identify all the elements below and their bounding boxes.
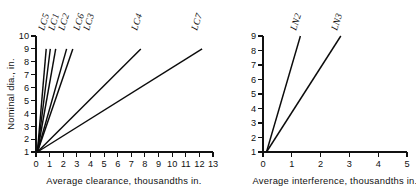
series-label-lc4: LC4	[128, 12, 144, 33]
left-x-ticklabel: 5	[102, 159, 107, 169]
left-x-ticklabel: 9	[156, 159, 161, 169]
right-y-ticklabel: 8	[251, 46, 256, 56]
left-chart-y-ticklabels: 10 9 8 7 6 5 4 3 2 1	[19, 31, 29, 157]
left-x-ticklabel: 2	[61, 159, 66, 169]
left-x-ticklabel: 4	[88, 159, 93, 169]
right-chart-x-ticks	[263, 152, 407, 157]
series-line-ln2	[267, 36, 301, 152]
left-y-ticklabel: 9	[24, 44, 29, 54]
left-chart-x-ticklabels: 0 1 2 3 4 5 6 7 8 9 10 11 12 13	[33, 159, 218, 169]
series-line-ln3	[267, 36, 341, 152]
right-y-ticklabel: 6	[251, 75, 256, 85]
right-y-ticklabel: 4	[251, 104, 256, 114]
engineering-fit-chart-figure: 10 9 8 7 6 5 4 3 2 1	[0, 0, 416, 192]
figure-canvas: 10 9 8 7 6 5 4 3 2 1	[0, 0, 416, 192]
right-chart-x-ticklabels: 0 1 2 3 4 5	[260, 159, 409, 169]
left-y-ticklabel: 3	[24, 122, 29, 132]
left-x-ticklabel: 1	[47, 159, 52, 169]
left-chart-y-ticks	[31, 36, 36, 152]
left-y-ticklabel: 5	[24, 96, 29, 106]
right-chart-x-axis-title: Average interference, thousandths in.	[253, 175, 416, 186]
left-y-ticklabel: 8	[24, 57, 29, 67]
right-x-ticklabel: 2	[318, 159, 323, 169]
left-x-ticklabel: 12	[194, 159, 204, 169]
left-chart: 10 9 8 7 6 5 4 3 2 1	[5, 11, 218, 186]
left-chart-y-axis-title: Nominal dia., in.	[5, 58, 16, 129]
series-label-ln3: LN3	[328, 12, 344, 33]
right-y-ticklabel: 3	[251, 118, 256, 128]
left-x-ticklabel: 10	[167, 159, 177, 169]
left-x-ticklabel: 3	[74, 159, 79, 169]
left-chart-series-labels: LC5 LC1 LC2 LC6 LC3 LC4 LC7	[35, 11, 204, 33]
right-x-ticklabel: 3	[347, 159, 352, 169]
left-y-ticklabel: 7	[24, 70, 29, 80]
left-x-ticklabel: 8	[142, 159, 147, 169]
series-label-lc7: LC7	[188, 11, 204, 33]
right-chart: 9 8 7 6 5 4 3 2 1 0 1	[251, 12, 416, 186]
right-y-ticklabel: 7	[251, 60, 256, 70]
left-y-ticklabel: 6	[24, 83, 29, 93]
right-chart-series	[267, 36, 341, 152]
right-y-ticklabel: 9	[251, 31, 256, 41]
right-x-ticklabel: 5	[404, 159, 409, 169]
right-y-ticklabel: 1	[251, 147, 256, 157]
left-x-ticklabel: 7	[129, 159, 134, 169]
left-y-ticklabel: 10	[19, 31, 29, 41]
left-y-ticklabel: 4	[24, 109, 29, 119]
left-x-ticklabel: 11	[181, 159, 191, 169]
series-label-ln2: LN2	[287, 12, 303, 33]
left-x-ticklabel: 0	[33, 159, 38, 169]
right-x-ticklabel: 0	[260, 159, 265, 169]
left-chart-x-axis-title: Average clearance, thousandths in.	[46, 175, 201, 186]
right-chart-y-ticklabels: 9 8 7 6 5 4 3 2 1	[251, 31, 256, 157]
series-line-lc3	[37, 49, 72, 152]
right-y-ticklabel: 5	[251, 89, 256, 99]
right-x-ticklabel: 4	[376, 159, 381, 169]
left-x-ticklabel: 6	[115, 159, 120, 169]
left-y-ticklabel: 2	[24, 134, 29, 144]
right-chart-series-labels: LN2 LN3	[287, 12, 344, 33]
series-line-lc1	[37, 49, 50, 152]
right-chart-y-ticks	[258, 36, 263, 152]
left-chart-series	[37, 49, 202, 152]
right-x-ticklabel: 1	[289, 159, 294, 169]
left-x-ticklabel: 13	[208, 159, 218, 169]
left-y-ticklabel: 1	[24, 147, 29, 157]
right-y-ticklabel: 2	[251, 133, 256, 143]
left-chart-x-ticks	[36, 152, 213, 157]
